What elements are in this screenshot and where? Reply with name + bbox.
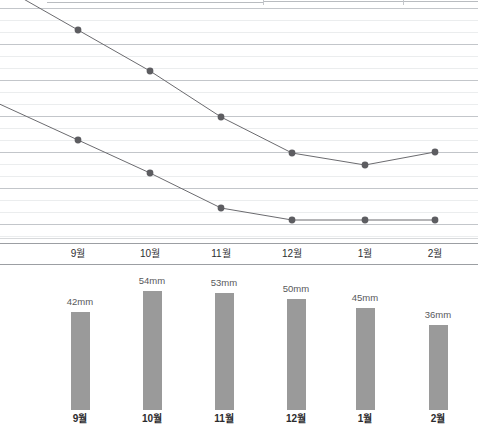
axis-band-upper-rule	[0, 243, 478, 244]
data-point-marker[interactable]	[362, 162, 369, 169]
bar-group-3: 53mm11월	[184, 266, 264, 434]
data-point-marker[interactable]	[147, 170, 154, 177]
bar-month-label: 12월	[256, 410, 336, 425]
axis-band-bottom-rule	[0, 264, 478, 265]
bar[interactable]	[429, 325, 448, 410]
x-axis-label-4: 12월	[262, 245, 322, 263]
bar-group-1: 42mm9월	[40, 266, 120, 434]
data-point-marker[interactable]	[218, 205, 225, 212]
bar[interactable]	[287, 299, 306, 410]
x-axis-label-1: 9월	[48, 245, 108, 263]
data-point-marker[interactable]	[218, 114, 225, 121]
top-border-segment	[263, 1, 403, 2]
data-point-marker[interactable]	[432, 149, 439, 156]
bar-group-4: 50mm12월	[256, 266, 336, 434]
line-path	[0, 104, 435, 220]
bar-month-label: 10월	[112, 410, 192, 425]
data-point-marker[interactable]	[147, 68, 154, 75]
bar-chart: 42mm9월54mm10월53mm11월50mm12월45mm1월36mm2월	[0, 266, 478, 434]
bar-group-5: 45mm1월	[325, 266, 405, 434]
bar-value-label: 53mm	[184, 277, 264, 288]
x-axis-label-2: 10월	[120, 245, 180, 263]
chart-page: 9월10월11월12월1월2월 42mm9월54mm10월53mm11월50mm…	[0, 0, 478, 434]
bar-value-label: 50mm	[256, 283, 336, 294]
bar-value-label: 54mm	[112, 275, 192, 286]
data-point-marker[interactable]	[75, 27, 82, 34]
top-border-tick	[263, 0, 264, 5]
data-point-marker[interactable]	[289, 217, 296, 224]
bar[interactable]	[215, 293, 234, 410]
top-border-segment	[403, 1, 478, 2]
bar-group-2: 54mm10월	[112, 266, 192, 434]
data-point-marker[interactable]	[362, 217, 369, 224]
line-chart-x-axis: 9월10월11월12월1월2월	[0, 245, 478, 263]
bar-value-label: 45mm	[325, 292, 405, 303]
top-border-segment	[47, 2, 263, 3]
bar-value-label: 42mm	[40, 296, 120, 307]
top-border-tick	[403, 0, 404, 5]
bar[interactable]	[71, 312, 90, 410]
line-series-upper-line	[0, 0, 438, 168]
line-chart-plot	[0, 8, 478, 238]
bar-month-label: 11월	[184, 410, 264, 425]
axis-band-top-rule	[0, 238, 478, 239]
bar[interactable]	[356, 308, 375, 410]
line-chart	[0, 8, 478, 238]
data-point-marker[interactable]	[432, 217, 439, 224]
bar-group-6: 36mm2월	[398, 266, 478, 434]
bar-month-label: 2월	[398, 410, 478, 425]
data-point-marker[interactable]	[75, 137, 82, 144]
x-axis-label-6: 2월	[405, 245, 465, 263]
x-axis-label-3: 11월	[191, 245, 251, 263]
bar-month-label: 9월	[40, 410, 120, 425]
data-point-marker[interactable]	[289, 150, 296, 157]
bar-value-label: 36mm	[398, 309, 478, 320]
x-axis-label-5: 1월	[335, 245, 395, 263]
bar[interactable]	[143, 291, 162, 410]
bar-month-label: 1월	[325, 410, 405, 425]
line-path	[0, 0, 435, 165]
